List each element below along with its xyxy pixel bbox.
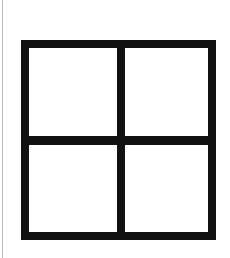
pane-bottom-right xyxy=(125,145,208,232)
page-edge-line xyxy=(2,0,3,258)
figure-canvas: A thick black square outline divided int… xyxy=(0,0,230,258)
horizontal-divider xyxy=(21,136,216,145)
pane-top-right xyxy=(125,48,208,136)
pane-bottom-left xyxy=(29,145,117,232)
figure-description: A thick black square outline divided int… xyxy=(0,0,1,1)
pane-top-left xyxy=(29,48,117,136)
